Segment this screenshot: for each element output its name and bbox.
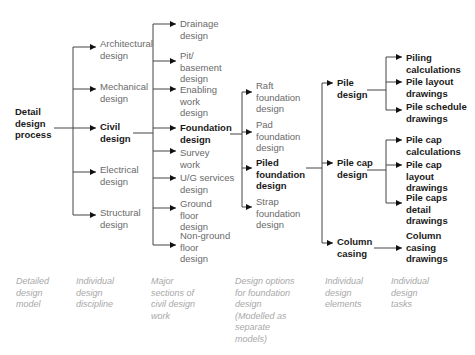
node-pile-cap-calculations: Pile cap calculations xyxy=(406,134,461,157)
arrowhead-icon xyxy=(170,205,176,211)
arrowhead-icon xyxy=(396,79,402,85)
arrowhead-icon xyxy=(170,58,176,64)
arrowhead-icon xyxy=(396,200,402,206)
node-drainage-design: Drainage design xyxy=(180,18,219,41)
arrowhead-icon xyxy=(170,242,176,248)
node-ground-floor-design: Ground floor design xyxy=(180,198,212,233)
node-piled-foundation-design: Piled foundation design xyxy=(256,157,305,192)
arrowhead-icon xyxy=(396,107,402,113)
node-non-ground-floor-design: Non-ground floor design xyxy=(180,230,230,265)
node-pile-schedule-drawings: Pile schedule drawings xyxy=(406,101,467,124)
node-pit-basement-design: Pit/ basement design xyxy=(180,50,222,85)
arrowhead-icon xyxy=(90,86,96,92)
node-enabling-work-design: Enabling work design xyxy=(180,84,217,119)
node-pile-design: Pile design xyxy=(337,77,368,100)
arrowhead-icon xyxy=(327,160,333,166)
node-column-casing: Column casing xyxy=(337,236,372,259)
arrowhead-icon xyxy=(396,245,402,251)
arrowhead-icon xyxy=(170,175,176,181)
arrowhead-icon xyxy=(396,54,402,60)
arrowhead-icon xyxy=(90,169,96,175)
node-strap-foundation-design: Strap foundation design xyxy=(256,196,300,231)
arrowhead-icon xyxy=(170,148,176,154)
node-pile-cap-design: Pile cap design xyxy=(337,157,373,180)
arrowhead-icon xyxy=(90,212,96,218)
arrowhead-icon xyxy=(246,204,252,210)
node-electrical-design: Electrical design xyxy=(100,164,139,187)
node-survey-work: Survey work xyxy=(180,147,210,170)
arrowhead-icon xyxy=(396,162,402,168)
node-pile-caps-detail-drawings: Pile caps detail drawings xyxy=(406,192,448,227)
node-pad-foundation-design: Pad foundation design xyxy=(256,119,300,154)
caption-individual-design-discipline: Individual design discipline xyxy=(76,276,114,311)
node-column-casing-drawings: Column casing drawings xyxy=(406,230,448,265)
node-raft-foundation-design: Raft foundation design xyxy=(256,80,300,115)
arrowhead-icon xyxy=(327,240,333,246)
caption-individual-design-tasks: Individual design tasks xyxy=(391,276,429,311)
node-root: Detail design process xyxy=(15,106,51,141)
node-architectural-design: Architectural design xyxy=(100,38,153,61)
arrowhead-icon xyxy=(246,129,252,135)
node-mechanical-design: Mechanical design xyxy=(100,81,148,104)
node-pile-layout-drawings: Pile layout drawings xyxy=(406,76,454,99)
arrowhead-icon xyxy=(396,137,402,143)
node-foundation-design: Foundation design xyxy=(180,122,232,145)
arrowhead-icon xyxy=(170,125,176,131)
arrowhead-icon xyxy=(170,21,176,27)
node-pile-cap-layout-drawings: Pile cap layout drawings xyxy=(406,159,448,194)
arrowhead-icon xyxy=(90,44,96,50)
hierarchy-diagram: Detail design process Architectural desi… xyxy=(0,0,475,355)
caption-detailed-design-model: Detailed design model xyxy=(16,276,49,311)
arrowhead-icon xyxy=(90,125,96,131)
caption-individual-design-elements: Individual design elements xyxy=(325,276,363,311)
arrowhead-icon xyxy=(246,165,252,171)
node-civil-design: Civil design xyxy=(100,121,131,144)
node-ug-services-design: U/G services design xyxy=(180,172,234,195)
arrowhead-icon xyxy=(246,89,252,95)
node-piling-calculations: Piling calculations xyxy=(406,52,461,75)
caption-major-sections: Major sections of civil design work xyxy=(151,276,195,322)
node-structural-design: Structural design xyxy=(100,207,141,230)
arrowhead-icon xyxy=(170,86,176,92)
caption-design-options: Design options for foundation design (Mo… xyxy=(235,276,295,345)
arrowhead-icon xyxy=(327,80,333,86)
